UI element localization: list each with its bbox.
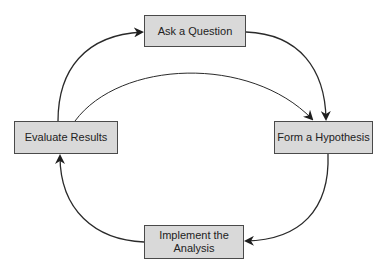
node-label: Ask a Question: [158, 25, 233, 38]
arrow-evaluate-to-ask: [58, 32, 142, 121]
node-form-a-hypothesis: Form a Hypothesis: [274, 121, 373, 154]
node-label: Form a Hypothesis: [277, 131, 369, 144]
node-implement-the-analysis: Implement the Analysis: [144, 225, 244, 259]
node-label: Evaluate Results: [25, 131, 108, 144]
arrow-form-to-implement: [246, 154, 328, 241]
node-label-line-2: Analysis: [159, 242, 229, 255]
arrow-evaluate-to-form: [75, 73, 312, 121]
node-label-line-1: Implement the: [159, 229, 229, 242]
node-ask-a-question: Ask a Question: [144, 15, 246, 47]
arrow-ask-to-form: [246, 32, 326, 119]
node-evaluate-results: Evaluate Results: [14, 121, 118, 154]
arrow-implement-to-evaluate: [60, 156, 144, 242]
